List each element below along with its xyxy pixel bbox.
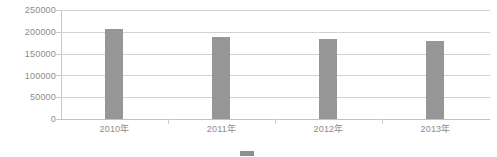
bar-2010[interactable] — [105, 29, 123, 119]
y-tick-label-100000: 100000 — [4, 72, 56, 81]
y-tick-label-0: 0 — [4, 115, 56, 124]
x-tick-label-2013: 2013年 — [382, 123, 489, 135]
x-tick-label-2011: 2011年 — [168, 123, 275, 135]
x-axis-labels: 2010年 2011年 2012年 2013年 — [61, 123, 490, 139]
caption-legend-swatch — [240, 151, 254, 156]
y-tick-label-250000: 250000 — [4, 6, 56, 15]
bar-2011[interactable] — [212, 37, 230, 119]
y-tick-label-200000: 200000 — [4, 28, 56, 37]
x-tick-label-2010: 2010年 — [61, 123, 168, 135]
y-axis-labels: 250000 200000 150000 100000 50000 0 — [0, 0, 56, 157]
x-tick-label-2012: 2012年 — [275, 123, 382, 135]
y-tick-label-150000: 150000 — [4, 50, 56, 59]
plot-area — [61, 10, 490, 119]
bar-2013[interactable] — [426, 41, 444, 119]
y-tick-label-50000: 50000 — [4, 93, 56, 102]
figure-caption — [0, 147, 497, 157]
bar-chart-figure: 250000 200000 150000 100000 50000 0 2010… — [0, 0, 497, 157]
gridline-250000 — [61, 10, 490, 11]
gridline-200000 — [61, 32, 490, 33]
bar-2012[interactable] — [319, 39, 337, 119]
